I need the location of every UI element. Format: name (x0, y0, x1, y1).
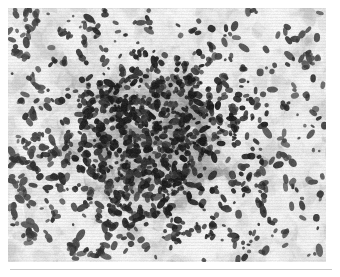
micrograph-canvas (8, 8, 326, 262)
micrograph-image (8, 8, 326, 262)
figure-root (0, 0, 340, 277)
figure-separator-rule (10, 269, 332, 270)
figure-caption (10, 271, 332, 276)
